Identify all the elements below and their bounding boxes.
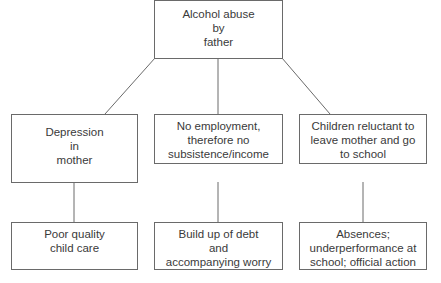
edge-root-children (282, 58, 330, 114)
node-childcare: Poor quality child care (11, 222, 138, 270)
node-absences: Absences; underperformance at school; of… (299, 222, 427, 270)
node-depression-label: Depression in mother (45, 115, 103, 182)
node-debt-label: Build up of debt and accompanying worry (166, 223, 271, 269)
node-root-label: Alcohol abuse by father (182, 1, 254, 58)
node-depression: Depression in mother (11, 114, 138, 183)
node-childcare-label: Poor quality child care (44, 223, 105, 269)
node-children: Children reluctant to leave mother and g… (299, 114, 427, 164)
edge-root-depression (105, 58, 155, 114)
node-absences-label: Absences; underperformance at school; of… (310, 223, 417, 269)
node-employment-label: No employment, therefore no subsistence/… (168, 115, 269, 163)
node-employment: No employment, therefore no subsistence/… (154, 114, 283, 164)
node-debt: Build up of debt and accompanying worry (154, 222, 283, 270)
node-children-label: Children reluctant to leave mother and g… (311, 115, 416, 163)
node-root: Alcohol abuse by father (154, 0, 283, 59)
